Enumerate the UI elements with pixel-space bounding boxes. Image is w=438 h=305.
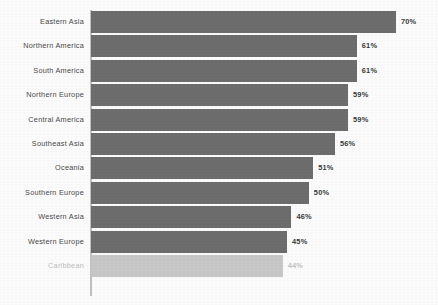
category-label: Western Asia [38, 206, 84, 228]
bar [91, 133, 335, 155]
bar [91, 182, 309, 204]
bar-value-label: 45% [292, 231, 307, 253]
bar-value-label: 44% [288, 255, 303, 277]
bar-row: Western Asia46% [0, 206, 438, 228]
category-label: South America [33, 60, 84, 82]
bar-row: Northern Europe59% [0, 84, 438, 106]
bar [91, 109, 348, 131]
bar-row: Southeast Asia56% [0, 133, 438, 155]
bar-value-label: 51% [318, 157, 333, 179]
bar [91, 231, 287, 253]
bar [91, 255, 283, 277]
bar-row: Oceania51% [0, 157, 438, 179]
bar [91, 206, 291, 228]
bar-value-label: 46% [296, 206, 311, 228]
bar-row: Northern America61% [0, 35, 438, 57]
bar-value-label: 59% [353, 109, 368, 131]
bar-row: Central America59% [0, 109, 438, 131]
bar-row: Eastern Asia70% [0, 11, 438, 33]
plot-area: Eastern Asia70%Northern America61%South … [0, 0, 438, 305]
bar-row: South America61% [0, 60, 438, 82]
category-label: Southern Europe [25, 182, 84, 204]
bar [91, 157, 313, 179]
bar-value-label: 61% [362, 60, 377, 82]
bar-row: Western Europe45% [0, 231, 438, 253]
category-label: Western Europe [28, 231, 84, 253]
bar-value-label: 61% [362, 35, 377, 57]
category-label: Southeast Asia [32, 133, 84, 155]
category-label: Oceania [55, 157, 84, 179]
bar-value-label: 70% [401, 11, 416, 33]
bar [91, 60, 357, 82]
bar-row: Southern Europe50% [0, 182, 438, 204]
category-label: Eastern Asia [40, 11, 84, 33]
bar [91, 84, 348, 106]
category-label: Northern Europe [26, 84, 84, 106]
bar [91, 35, 357, 57]
category-label: Caribbean [48, 255, 84, 277]
bar-value-label: 56% [340, 133, 355, 155]
category-label: Central America [28, 109, 84, 131]
bar-chart: Eastern Asia70%Northern America61%South … [0, 0, 438, 305]
category-label: Northern America [23, 35, 84, 57]
bar-row: Caribbean44% [0, 255, 438, 277]
bar-value-label: 50% [314, 182, 329, 204]
bar-value-label: 59% [353, 84, 368, 106]
bar [91, 11, 396, 33]
